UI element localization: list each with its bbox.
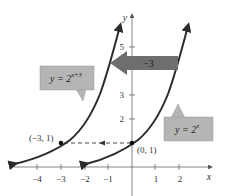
equation-left-exponent: x+3 — [70, 71, 82, 78]
equation-right: y = 2x — [174, 122, 199, 135]
point-0-1 — [130, 141, 135, 146]
equation-left-base: y = 2 — [49, 73, 71, 84]
x-tick-label: −1 — [103, 174, 113, 184]
exponential-graph: −4 −3 −2 −1 1 2 x 5 3 2 y (−3, 1) (0, 1)… — [0, 0, 230, 196]
y-tick-label: 2 — [120, 114, 125, 124]
x-tick-label: −4 — [32, 174, 42, 184]
point-neg3-1 — [59, 141, 64, 146]
x-tick-label: −2 — [80, 174, 90, 184]
y-axis-label: y — [122, 12, 128, 23]
label-box-left: y = 2x+3 — [40, 66, 94, 101]
y-tick-label: 5 — [120, 42, 125, 52]
dashed-arrowhead-icon — [99, 141, 105, 146]
x-tick-label: 2 — [178, 174, 183, 184]
point-label-right: (0, 1) — [137, 145, 157, 155]
shift-arrow: −3 — [110, 51, 178, 75]
x-tick-label: −3 — [56, 174, 66, 184]
x-tick-label: 1 — [154, 174, 159, 184]
equation-right-base: y = 2 — [174, 124, 196, 135]
equation-right-exponent: x — [195, 122, 199, 129]
shift-label: −3 — [143, 58, 154, 69]
label-box-right: y = 2x — [164, 104, 213, 141]
y-tick-label: 3 — [120, 90, 125, 100]
x-axis-label: x — [206, 171, 212, 182]
point-label-left: (−3, 1) — [29, 133, 54, 143]
